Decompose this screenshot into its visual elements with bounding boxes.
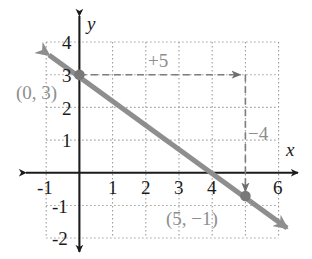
run-label: +5 <box>148 50 168 71</box>
x-tick-label-6: 6 <box>273 177 283 198</box>
y-tick-label-4: 4 <box>62 32 72 53</box>
graph-figure: y x -1 1 2 3 4 6 4 3 2 1 -1 -2 (0, 3) (5… <box>0 0 312 259</box>
y-axis-label: y <box>85 13 96 34</box>
x-tick-label-1: 1 <box>108 177 118 198</box>
x-tick-label--1: -1 <box>37 177 53 198</box>
point-label-0-3: (0, 3) <box>16 82 57 104</box>
coordinate-plane-svg: y x -1 1 2 3 4 6 4 3 2 1 -1 -2 (0, 3) (5… <box>0 0 312 259</box>
y-tick-label-2: 2 <box>62 98 72 119</box>
point-5-neg1 <box>240 191 251 202</box>
x-tick-label-3: 3 <box>174 177 184 198</box>
point-0-3 <box>74 69 85 80</box>
x-axis-label: x <box>285 139 295 160</box>
y-tick-label--2: -2 <box>52 228 68 249</box>
rise-label: −4 <box>248 123 269 144</box>
x-tick-label-2: 2 <box>141 177 151 198</box>
y-tick-label-1: 1 <box>62 130 72 151</box>
y-tick-label--1: -1 <box>52 196 68 217</box>
y-tick-label-3: 3 <box>62 65 72 86</box>
x-tick-label-4: 4 <box>207 177 217 198</box>
point-label-5-neg1: (5, −1) <box>166 208 218 230</box>
